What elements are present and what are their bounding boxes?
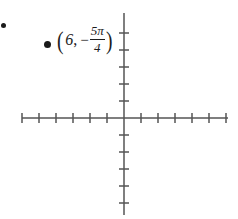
point-coordinate-label: ( 6 , − 5π 4 ): [56, 25, 113, 55]
plotted-point-marker: [44, 41, 51, 48]
label-radius-value: 6: [64, 32, 73, 48]
coordinate-axes: [0, 0, 238, 219]
label-minus-sign: −: [80, 33, 89, 48]
label-close-paren: ): [106, 28, 112, 53]
label-angle-fraction: 5π 4: [90, 24, 105, 54]
label-comma: ,: [73, 32, 80, 48]
label-open-paren: (: [57, 28, 63, 53]
polar-coordinate-figure: ( 6 , − 5π 4 ): [0, 0, 238, 219]
fraction-numerator: 5π: [90, 24, 105, 38]
fraction-denominator: 4: [94, 41, 101, 55]
